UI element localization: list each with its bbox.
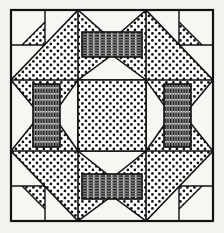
quilt-block-drawing [0,0,224,233]
block-middle-left [11,80,78,151]
block-bottom-center [78,151,146,221]
middle-right-vertical-stripe-bar [164,84,191,147]
center-dotted-square [78,80,146,151]
middle-left-vertical-stripe-bar [33,84,60,147]
bottom-center-horizontal-stripe-bar [82,174,142,199]
quilt-block-figure [0,0,224,233]
top-center-horizontal-stripe-bar [82,32,142,57]
block-top-center [78,10,146,80]
block-center [78,80,146,151]
block-middle-right [146,80,213,151]
